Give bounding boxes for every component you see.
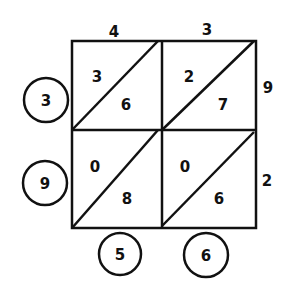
right-label-2: 2 — [262, 172, 272, 190]
right-label-1: 9 — [263, 79, 273, 97]
diagonal-r2c2 — [162, 132, 254, 226]
top-digit-1: 4 — [109, 23, 119, 41]
cell-r2c1-tens: 0 — [90, 158, 100, 176]
cell-r1c1-ones: 6 — [121, 96, 131, 114]
cell-r2c2-tens: 0 — [180, 158, 190, 176]
diagonal-r1c2 — [162, 41, 254, 130]
bottom-digit-1: 5 — [115, 246, 125, 264]
cell-r2c1-ones: 8 — [122, 190, 132, 208]
lattice-diagram: 4 3 3 9 9 2 3 6 2 7 0 8 0 6 5 6 — [0, 0, 289, 292]
cell-r1c2-ones: 7 — [218, 96, 228, 114]
diagonal-r2c1 — [72, 130, 158, 228]
cell-r2c2-ones: 6 — [214, 190, 224, 208]
diagonal-r1c1 — [72, 41, 158, 130]
left-digit-1: 3 — [41, 92, 51, 110]
cell-r1c2-tens: 2 — [184, 68, 194, 86]
left-digit-2: 9 — [40, 175, 50, 193]
cell-r1c1-tens: 3 — [92, 68, 102, 86]
top-digit-2: 3 — [202, 21, 212, 39]
bottom-digit-2: 6 — [201, 247, 211, 265]
